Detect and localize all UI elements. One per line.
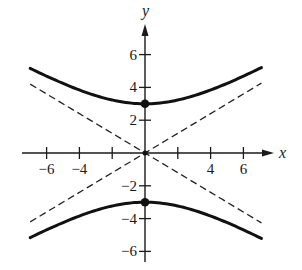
x-tick-label: −4 — [71, 161, 87, 177]
vertex-upper-point — [141, 100, 150, 109]
hyperbola-plot: x y −6−446 642−2−4−6 — [0, 0, 302, 270]
hyperbola-lower-branch — [30, 202, 261, 238]
vertex-lower-point — [141, 198, 150, 207]
center-point — [143, 151, 148, 156]
y-tick-label: −2 — [121, 178, 137, 194]
x-tick-label: 4 — [207, 161, 215, 177]
x-axis-arrow-icon — [262, 150, 274, 157]
x-tick-label: −6 — [39, 161, 55, 177]
y-tick-label: −4 — [121, 211, 137, 227]
y-axis-label: y — [140, 2, 150, 20]
x-tick-label: 6 — [240, 161, 248, 177]
y-tick-label: 4 — [130, 79, 138, 95]
x-axis-label: x — [278, 144, 286, 161]
y-tick-label: 6 — [130, 47, 138, 63]
hyperbola-upper-branch — [30, 68, 261, 104]
y-axis-arrow-icon — [142, 24, 149, 36]
y-tick-label: 2 — [130, 112, 138, 128]
y-tick-label: −6 — [121, 243, 137, 259]
